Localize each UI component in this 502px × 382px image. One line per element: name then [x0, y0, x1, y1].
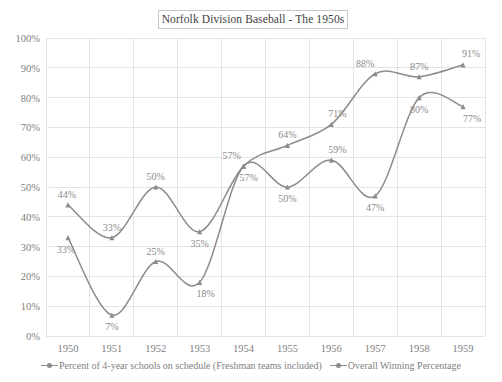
x-axis-tick-label: 1955 [277, 343, 298, 354]
y-axis-tick-label: 100% [16, 33, 41, 44]
data-point-label: 77% [463, 112, 481, 123]
legend-marker-icon [330, 361, 347, 370]
y-axis-tick-label: 90% [21, 62, 40, 73]
data-point-label: 91% [462, 47, 480, 58]
data-point-label: 33% [57, 243, 75, 254]
legend-item[interactable]: Overall Winning Percentage [330, 359, 461, 371]
x-axis-tick-label: 1953 [189, 343, 210, 354]
x-axis-tick-label: 1956 [321, 343, 342, 354]
data-point-label: 59% [328, 144, 346, 155]
x-axis-tick-label: 1952 [145, 343, 166, 354]
chart-legend: Percent of 4-year schools on schedule (F… [0, 358, 502, 371]
data-point-label: 47% [366, 201, 384, 212]
series-line [68, 93, 463, 316]
y-axis-tick-label: 0% [26, 331, 40, 342]
data-point-marker [65, 235, 70, 240]
y-axis-tick-label: 40% [21, 211, 40, 222]
y-axis-tick-label: 50% [21, 182, 40, 193]
y-axis-tick-label: 20% [21, 271, 40, 282]
x-axis-tick-label: 1954 [233, 343, 254, 354]
data-point-label: 71% [328, 108, 346, 119]
data-point-label: 44% [58, 188, 76, 199]
data-point-label: 7% [105, 321, 118, 332]
series-line [68, 65, 463, 238]
x-axis-tick-label: 1958 [409, 343, 430, 354]
data-point-marker [373, 71, 378, 76]
legend-item-label: Percent of 4-year schools on schedule (F… [59, 360, 322, 371]
x-axis-tick-label: 1957 [365, 343, 386, 354]
data-point-label: 87% [410, 60, 428, 71]
x-axis-tick-label: 1950 [57, 343, 78, 354]
chart-title: Norfolk Division Baseball - The 1950s [158, 10, 348, 29]
data-point-label: 35% [190, 237, 208, 248]
data-point-label: 25% [147, 245, 165, 256]
data-point-label: 57% [222, 150, 240, 161]
data-point-label: 64% [278, 129, 296, 140]
data-point-marker [65, 202, 70, 207]
series-lines [46, 38, 485, 336]
y-axis-tick-label: 80% [21, 92, 40, 103]
legend-item[interactable]: Percent of 4-year schools on schedule (F… [41, 359, 322, 371]
data-point-label: 80% [410, 103, 428, 114]
data-point-label: 33% [103, 221, 121, 232]
y-axis-tick-label: 60% [21, 152, 40, 163]
data-point-label: 57% [239, 172, 257, 183]
legend-marker-icon [41, 361, 58, 370]
legend-item-label: Overall Winning Percentage [348, 360, 461, 371]
y-axis-tick-label: 10% [21, 301, 40, 312]
data-point-label: 50% [278, 193, 296, 204]
x-axis-tick-label: 1951 [101, 343, 122, 354]
data-point-label: 50% [147, 171, 165, 182]
data-point-label: 18% [196, 288, 214, 299]
chart-container: Norfolk Division Baseball - The 1950s 0%… [0, 0, 502, 382]
plot-area: 0%10%20%30%40%50%60%70%80%90%100%1950195… [46, 38, 485, 336]
x-axis-tick-label: 1959 [453, 343, 474, 354]
y-axis-tick-label: 70% [21, 122, 40, 133]
data-point-label: 88% [356, 57, 374, 68]
y-axis-tick-label: 30% [21, 241, 40, 252]
